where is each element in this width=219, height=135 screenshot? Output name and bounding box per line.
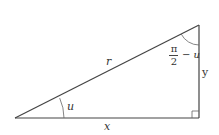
base-label: x: [104, 121, 110, 132]
height-label: y: [202, 67, 208, 78]
hypotenuse-line: [15, 25, 199, 118]
fraction-numerator: π: [169, 44, 179, 54]
minus-sign: −: [182, 49, 190, 60]
right-angle-marker: [192, 111, 199, 118]
hypotenuse-label: r: [106, 56, 111, 67]
angle-u-label: u: [67, 101, 74, 112]
fraction-denominator: 2: [169, 57, 179, 67]
fraction-remainder: − u: [182, 50, 200, 60]
angle-complement-arc: [181, 34, 199, 45]
variable-u: u: [194, 49, 200, 60]
angle-u-arc: [60, 98, 64, 118]
angle-complement-label: π 2 − u: [169, 44, 179, 67]
